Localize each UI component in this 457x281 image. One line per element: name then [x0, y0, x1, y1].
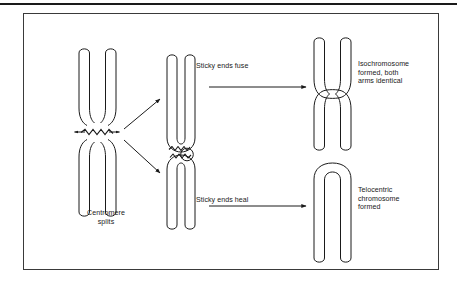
telocentric-chromosome [314, 163, 351, 262]
label-sticky-ends-heal: Sticky ends heal [196, 196, 248, 205]
top-horizontal-rule [0, 3, 457, 5]
centromere-break-zigzag [81, 129, 113, 134]
label-centromere-splits: Centromere splits [73, 209, 139, 226]
diagram-canvas [23, 13, 439, 270]
split-fragment-upper [167, 55, 195, 161]
split-fragment-lower [167, 154, 195, 229]
isochromosome [314, 38, 351, 150]
diagonal-arrow-lower [124, 140, 160, 173]
label-isochromosome: Isochromosome formed, both arms identica… [358, 60, 409, 86]
diagonal-arrow-upper [124, 99, 160, 129]
figure-root: Centromere splits Sticky ends fuse Stick… [0, 0, 457, 281]
label-telocentric: Telocentric chromosome formed [358, 186, 400, 212]
label-sticky-ends-fuse: Sticky ends fuse [196, 62, 248, 71]
